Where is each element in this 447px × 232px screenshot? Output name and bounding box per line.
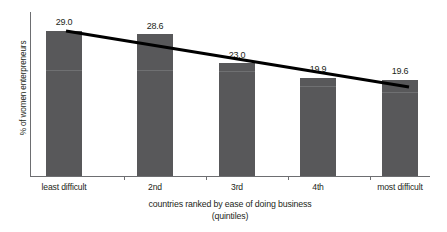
bar-least-difficult[interactable]	[46, 31, 82, 176]
x-axis-category-label: least difficult	[19, 182, 109, 193]
bar-value-label: 19.6	[380, 66, 420, 77]
x-axis-title-line1: countries ranked by ease of doing busine…	[149, 199, 312, 209]
bar-4th[interactable]	[300, 78, 336, 176]
x-axis-tick	[288, 176, 289, 180]
bar-3rd[interactable]	[219, 63, 255, 176]
bar-value-label: 23.0	[217, 50, 257, 61]
chart-figure: % of women enterpreneurs 29.0 28.6 23.0 …	[0, 0, 447, 232]
x-axis-category-label: most difficult	[355, 182, 445, 193]
bar-band	[300, 86, 336, 87]
x-axis-title-line2: (quintiles)	[30, 210, 430, 222]
x-axis-category-label: 4th	[273, 182, 363, 193]
x-axis-category-label: 3rd	[192, 182, 282, 193]
x-axis-category-label: 2nd	[110, 182, 200, 193]
bar-band	[382, 92, 418, 93]
bar-band	[219, 71, 255, 72]
x-axis-tick	[124, 176, 125, 180]
plot-area: 29.0 28.6 23.0 19.9 19.6 least difficult…	[30, 12, 430, 177]
y-axis-title: % of women enterpreneurs	[17, 8, 31, 168]
x-axis-tick	[206, 176, 207, 180]
x-axis-title: countries ranked by ease of doing busine…	[30, 198, 430, 222]
bar-value-label: 28.6	[135, 21, 175, 32]
bar-band	[46, 70, 82, 71]
bar-most-difficult[interactable]	[382, 80, 418, 176]
bar-value-label: 19.9	[298, 64, 338, 75]
y-axis-line	[30, 12, 31, 177]
x-axis-tick	[370, 176, 371, 180]
bar-2nd[interactable]	[137, 34, 173, 176]
bar-value-label: 29.0	[44, 17, 84, 28]
bar-band	[137, 70, 173, 71]
